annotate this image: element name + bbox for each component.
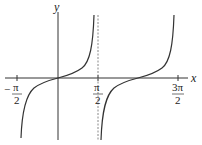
tangent-graph: x y − π 2 π 2 3π 2 bbox=[0, 0, 202, 145]
tick-label-neg-den: 2 bbox=[14, 94, 20, 106]
tick-label-neg-sign: − bbox=[4, 83, 10, 95]
x-axis-label: x bbox=[190, 71, 197, 85]
tick-label-pi-den: 2 bbox=[95, 94, 101, 106]
tick-label-3pi-den: 2 bbox=[175, 94, 181, 106]
tick-label-pi: π bbox=[94, 81, 100, 93]
tick-label-neg-pi: π bbox=[13, 81, 19, 93]
tick-label-3pi: 3π bbox=[172, 81, 184, 93]
y-axis-label: y bbox=[53, 0, 60, 14]
